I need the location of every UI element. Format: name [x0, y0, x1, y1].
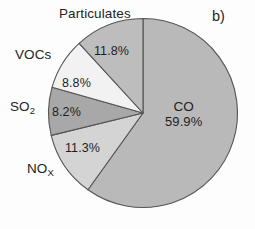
panel-label: b): [212, 8, 225, 24]
slice-value-co: CO 59.9%: [165, 99, 202, 129]
slice-label-so2-subscript: 2: [30, 105, 35, 116]
pie-chart-graphic: [0, 0, 255, 229]
slice-value-so2: 8.2%: [52, 105, 81, 119]
slice-value-vocs: 8.8%: [62, 76, 91, 90]
slice-label-vocs: VOCs: [15, 47, 51, 62]
slice-label-particulates: Particulates: [59, 6, 131, 21]
slice-value-co-percent: 59.9%: [165, 114, 202, 129]
pie-chart-figure: Particulates VOCs SO2 NOX 11.8% 8.8% 8.2…: [0, 0, 255, 229]
slice-label-nox-subscript: X: [47, 167, 53, 178]
slice-value-particulates: 11.8%: [94, 44, 129, 58]
slice-value-nox: 11.3%: [65, 141, 100, 155]
slice-label-nox: NOX: [27, 161, 54, 176]
slice-label-so2-base: SO: [10, 99, 30, 114]
slice-label-so2: SO2: [10, 99, 35, 114]
slice-label-co: CO: [165, 99, 202, 114]
slice-label-nox-base: NO: [27, 161, 47, 176]
